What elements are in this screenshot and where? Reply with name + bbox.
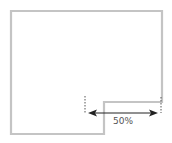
dimension-label: 50% (113, 116, 133, 126)
floor-outline (11, 11, 162, 134)
diagram-canvas: 50% (0, 0, 172, 143)
